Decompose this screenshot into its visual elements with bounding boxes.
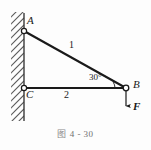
member-AB	[24, 31, 126, 88]
figure-caption-number: 4 - 30	[70, 129, 94, 139]
figure-caption-marker: 图	[57, 127, 67, 140]
node-label-C: C	[26, 89, 33, 100]
angle-label-30-degrees: 30°	[89, 73, 102, 82]
node-label-B: B	[133, 79, 140, 90]
truss-figure: A B C 1 2 30° F 图 4 - 30	[0, 0, 151, 150]
wall-support	[8, 4, 24, 146]
member-label-1: 1	[69, 40, 74, 50]
force-label-F: F	[133, 101, 140, 112]
member-label-2: 2	[64, 90, 69, 100]
wall-hatching-icon	[8, 4, 24, 146]
joint-B	[123, 85, 129, 91]
joint-A	[21, 28, 26, 33]
figure-caption: 图 4 - 30	[0, 127, 151, 140]
node-label-A: A	[27, 15, 34, 26]
